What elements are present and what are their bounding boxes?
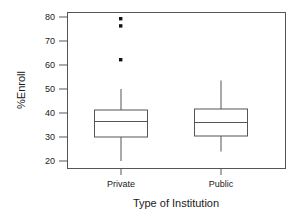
boxplot-chart: 80 70 60 50 40 30 20 — [0, 0, 295, 215]
y-tick-label-60: 60 — [45, 60, 55, 70]
y-tick-label-70: 70 — [45, 36, 55, 46]
y-tick-label-80: 80 — [45, 12, 55, 22]
outlier-point — [119, 24, 122, 27]
outlier-point — [119, 58, 122, 61]
chart-canvas: 80 70 60 50 40 30 20 — [0, 0, 295, 215]
y-axis-title: %Enroll — [15, 71, 27, 109]
y-tick-label-50: 50 — [45, 84, 55, 94]
x-tick-label-public: Public — [209, 179, 234, 189]
outlier-point — [119, 17, 122, 20]
y-tick-label-40: 40 — [45, 108, 55, 118]
y-tick-label-20: 20 — [45, 156, 55, 166]
y-tick-label-30: 30 — [45, 132, 55, 142]
x-tick-label-private: Private — [107, 179, 135, 189]
x-axis-title: Type of Institution — [133, 197, 219, 209]
